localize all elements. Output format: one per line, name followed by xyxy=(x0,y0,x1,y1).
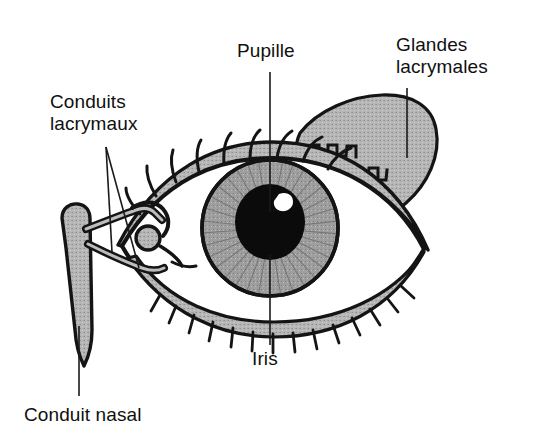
label-glandes-line1: Glandes xyxy=(396,34,467,55)
label-pupille: Pupille xyxy=(237,40,295,62)
label-glandes-line2: lacrymales xyxy=(396,56,488,77)
label-conduit-nasal: Conduit nasal xyxy=(24,404,142,426)
eye-diagram: Pupille Glandeslacrymales Conduitslacrym… xyxy=(0,0,535,446)
label-conduits-line1: Conduits xyxy=(50,91,126,112)
label-conduits-lacrymaux: Conduitslacrymaux xyxy=(50,91,137,135)
label-iris: Iris xyxy=(252,348,278,370)
label-glandes-lacrymales: Glandeslacrymales xyxy=(396,34,488,78)
label-conduits-line2: lacrymaux xyxy=(50,113,137,134)
